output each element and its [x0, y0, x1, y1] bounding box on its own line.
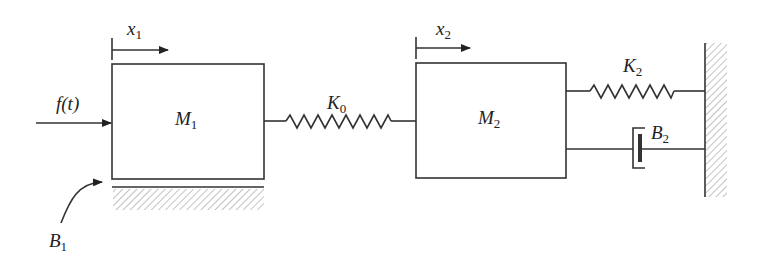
m1-label: M1: [175, 108, 197, 133]
k0-label: K0: [327, 92, 346, 117]
spring-k2: [566, 85, 705, 98]
b1-friction-arrow: [61, 182, 102, 223]
k2-label: K2: [623, 55, 642, 80]
force-label: f(t): [56, 93, 79, 115]
b2-label: B2: [651, 122, 669, 147]
damper-b2: [566, 128, 705, 168]
wall-hatch: [706, 43, 727, 197]
x2-label: x2: [436, 18, 451, 43]
diagram-canvas: [0, 0, 759, 265]
b1-label: B1: [49, 230, 67, 255]
m2-label: M2: [478, 107, 500, 132]
x1-label: x1: [127, 18, 142, 43]
ground-hatch: [113, 189, 264, 210]
